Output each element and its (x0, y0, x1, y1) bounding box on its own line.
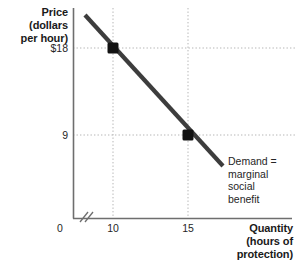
data-point-marker-1 (108, 43, 119, 54)
y-axis-tick-label-18: $18 (24, 42, 68, 54)
y-axis-tick-label-9: 9 (24, 129, 68, 141)
y-axis-title: Price (dollars per hour) (4, 6, 68, 45)
axis-break-icon (80, 212, 93, 222)
origin-label: 0 (51, 222, 69, 234)
x-axis-tick-label-10: 10 (104, 222, 122, 234)
demand-curve-chart: Price (dollars per hour) Quantity (hours… (0, 0, 297, 264)
demand-curve-line (85, 15, 223, 166)
x-axis-title: Quantity (hours of protection) (200, 222, 293, 261)
x-axis-tick-label-15: 15 (179, 222, 197, 234)
demand-curve-label: Demand = marginal social benefit (228, 155, 297, 205)
data-point-marker-2 (183, 130, 194, 141)
